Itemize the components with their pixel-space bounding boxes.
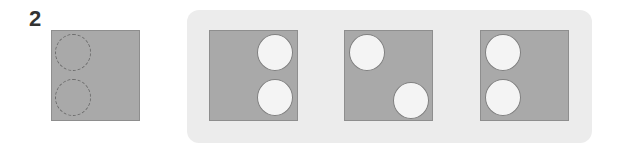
hole-circle <box>257 34 293 71</box>
question-number: 2 <box>29 6 41 32</box>
options-panel <box>187 10 592 143</box>
hole-circle <box>485 79 521 116</box>
hole-circle <box>485 34 521 71</box>
dashed-circle-top <box>55 34 91 71</box>
reference-square <box>51 30 140 121</box>
hole-circle <box>349 34 385 71</box>
option-1[interactable] <box>209 30 298 121</box>
option-2[interactable] <box>344 30 433 121</box>
hole-circle <box>257 79 293 116</box>
dashed-circle-bottom <box>55 79 91 116</box>
option-3[interactable] <box>480 30 569 121</box>
hole-circle <box>393 82 429 119</box>
